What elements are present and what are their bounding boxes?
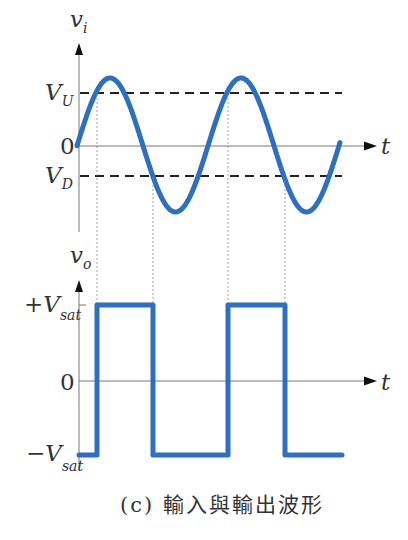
- output-y-axis-label: vo: [70, 242, 91, 272]
- waveform-diagram: vi VU 0 VD t vo +Vsat 0 −Vsat t: [0, 0, 408, 540]
- input-zero-label: 0: [60, 133, 75, 159]
- high-level-label: +Vsat: [24, 291, 81, 323]
- input-sine-wave: [77, 78, 340, 212]
- input-x-axis-label: t: [381, 133, 391, 159]
- output-zero-label: 0: [60, 369, 75, 395]
- output-x-axis-arrow-icon: [364, 377, 377, 386]
- figure-caption: (c) 輸入與輸出波形: [0, 488, 408, 518]
- upper-threshold-label: VU: [45, 79, 75, 109]
- input-x-axis-arrow-icon: [364, 142, 377, 151]
- input-y-axis-arrow-icon: [75, 43, 83, 55]
- output-plot: vo +Vsat 0 −Vsat t: [24, 242, 391, 474]
- input-y-axis-label: vi: [70, 6, 87, 36]
- low-level-label: −Vsat: [26, 440, 83, 474]
- output-square-wave: [79, 305, 342, 455]
- output-y-axis-arrow-icon: [75, 280, 83, 292]
- output-x-axis-label: t: [381, 369, 391, 395]
- lower-threshold-label: VD: [45, 162, 73, 192]
